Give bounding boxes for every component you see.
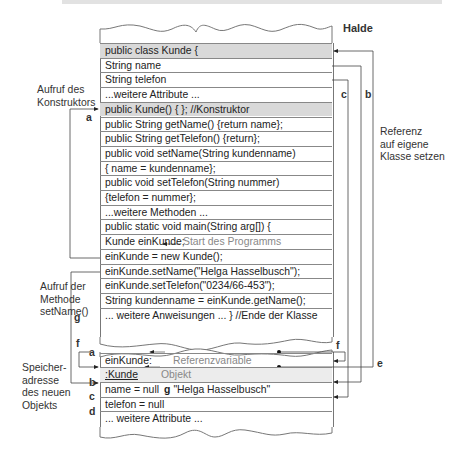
object-row: ... weitere Attribute ... (100, 411, 332, 426)
label-line: Objekts (22, 400, 71, 413)
heap-label: Halde (343, 22, 373, 34)
label-line: adresse (22, 375, 71, 388)
annotation-note: Objekt (161, 368, 191, 382)
label-line: Aufruf der (40, 281, 89, 294)
label-line: des neuen (22, 387, 71, 400)
class-row: public class Kunde { (100, 43, 332, 58)
label-line: Klasse setzen (380, 151, 445, 164)
label-line: Konstruktors (37, 97, 95, 110)
letter-c-right: c (341, 88, 347, 100)
label-line: setName() (40, 306, 89, 319)
letter-g-left: g (74, 311, 80, 323)
class-row: String telefon (100, 72, 332, 87)
object-row: name = nullg"Helga Hasselbusch" (100, 382, 332, 397)
class-row: public String getTelefon() {return}; (100, 131, 332, 146)
letter-f-left: f (76, 337, 80, 349)
row-text: public static void main(String arg[]) { (105, 221, 271, 232)
row-text: public void setTelefon(String nummer) (105, 177, 279, 188)
memory-address-label: Speicher- adresse des neuen Objekts (22, 362, 71, 412)
row-text: ... weitere Anweisungen ... } //Ende der… (105, 310, 318, 321)
class-row: einKunde.setName("Helga Hasselbusch"); (100, 264, 332, 279)
class-row: einKunde = new Kunde(); (100, 249, 332, 264)
class-row: ... weitere Anweisungen ... } //Ende der… (100, 308, 332, 323)
object-row: telefon = null (100, 397, 332, 412)
letter-g-inline: g (164, 384, 170, 395)
row-text: telefon = null (105, 399, 164, 410)
class-row: public Kunde() { }; //Konstruktor (100, 102, 332, 117)
row-text: ... weitere Attribute ... (105, 413, 203, 424)
letter-c-obj: c (89, 390, 95, 402)
class-row: ...weitere Attribute ... (100, 87, 332, 102)
label-line: auf eigene (380, 139, 445, 152)
row-text: public String getName() {return name}; (105, 119, 283, 130)
annotation-note: Referenzvariable (173, 354, 252, 368)
row-text: einKunde = new Kunde(); (105, 251, 223, 262)
class-row: Kunde einKunde;Start des Programms (100, 234, 332, 249)
row-text: String telefon (105, 74, 166, 85)
row-text: name = null (105, 384, 159, 395)
class-row: public void setTelefon(String nummer) (100, 175, 332, 190)
class-row: public static void main(String arg[]) { (100, 219, 332, 234)
row-text: Kunde einKunde; (105, 236, 185, 247)
class-row: { name = kundenname}; (100, 161, 332, 176)
letter-a-top: a (86, 111, 92, 123)
row-text: { name = kundenname}; (105, 163, 216, 174)
class-row: einKunde.setTelefon("0234/66-453"); (100, 278, 332, 293)
row-text: einKunde.setTelefon("0234/66-453"); (105, 280, 275, 291)
object-row: einKunde:Referenzvariable (100, 353, 332, 368)
letter-b-obj: b (89, 376, 95, 388)
class-row: String kundenname = einKunde.getName(); (100, 293, 332, 308)
object-row: :KundeObjekt (100, 367, 332, 382)
class-row: public void setName(String kundenname) (100, 146, 332, 161)
row-text: public Kunde() { }; //Konstruktor (105, 104, 249, 115)
reference-label: Referenz auf eigene Klasse setzen (380, 126, 445, 164)
class-row: public String getName() {return name}; (100, 117, 332, 132)
row-text: public class Kunde { (105, 45, 198, 56)
letter-a-obj: a (89, 346, 95, 358)
letter-b-right: b (365, 88, 371, 100)
row-text: :Kunde (105, 369, 138, 380)
letter-d-obj: d (89, 405, 95, 417)
label-line: Methode (40, 294, 89, 307)
method-call-label: Aufruf der Methode setName() (40, 281, 89, 319)
row-text: String kundenname = einKunde.getName(); (105, 295, 306, 306)
row-text: String name (105, 60, 161, 71)
row-text: ...weitere Attribute ... (105, 89, 200, 100)
label-line: Aufruf des (37, 84, 95, 97)
class-row: {telefon = nummer}; (100, 190, 332, 205)
assigned-value: "Helga Hasselbusch" (173, 384, 270, 395)
annotation-note: Start des Programms (183, 235, 281, 249)
row-text: einKunde.setName("Helga Hasselbusch"); (105, 266, 300, 277)
row-text: public void setName(String kundenname) (105, 148, 296, 159)
letter-f-right: f (336, 339, 340, 351)
label-line: Referenz (380, 126, 445, 139)
class-row: ...weitere Methoden ... (100, 205, 332, 220)
label-line: Speicher- (22, 362, 71, 375)
constructor-call-label: Aufruf des Konstruktors (37, 84, 95, 109)
row-text: {telefon = nummer}; (105, 192, 196, 203)
letter-e-right: e (377, 357, 383, 369)
row-text: public String getTelefon() {return}; (105, 133, 260, 144)
row-text: einKunde: (105, 355, 152, 366)
class-row: String name (100, 58, 332, 73)
row-text: ...weitere Methoden ... (105, 207, 208, 218)
